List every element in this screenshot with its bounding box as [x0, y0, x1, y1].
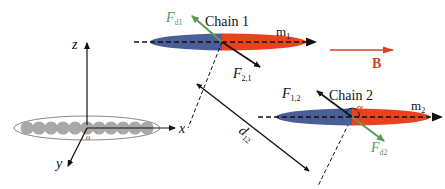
chain-1: Chain 1 m1 Fd1 F2,1	[134, 10, 316, 83]
coordinate-frame: z x y o	[14, 37, 186, 171]
chain-1-moment-label: m1	[276, 24, 290, 41]
chain-2-moment-label: m2	[411, 98, 425, 115]
chain-2-interaction-force-label: F1,2	[281, 86, 301, 103]
chain-2-perpendicular	[318, 117, 352, 186]
chain-1-perpendicular	[188, 42, 222, 128]
chain-1-dipolar-force-label: Fd1	[165, 10, 183, 27]
particle-sphere	[20, 121, 33, 134]
origin-label: o	[86, 133, 90, 142]
distance-label: d12	[235, 123, 257, 146]
particle-sphere	[68, 121, 81, 134]
chain-2-angle-label: α	[356, 100, 364, 115]
chain-interaction-diagram: z x y o Chain 1 m1 Fd1 F2,1 B d12 Chain …	[0, 0, 445, 189]
particle-sphere	[56, 121, 69, 134]
chain-2: Chain 2 m2 α F1,2 Fd2	[258, 86, 442, 157]
z-axis-label: z	[71, 37, 78, 52]
chain-2-dipolar-force-label: Fd2	[370, 140, 388, 157]
chain-2-label: Chain 2	[329, 88, 373, 103]
particle-sphere	[44, 121, 57, 134]
field-label: B	[372, 56, 381, 71]
y-axis-label: y	[54, 156, 63, 171]
chain-1-label: Chain 1	[205, 14, 249, 29]
chain-1-interaction-force-label: F2,1	[232, 66, 252, 83]
particle-sphere	[32, 121, 45, 134]
x-axis-label: x	[178, 121, 186, 136]
magnetic-field: B	[330, 50, 393, 71]
